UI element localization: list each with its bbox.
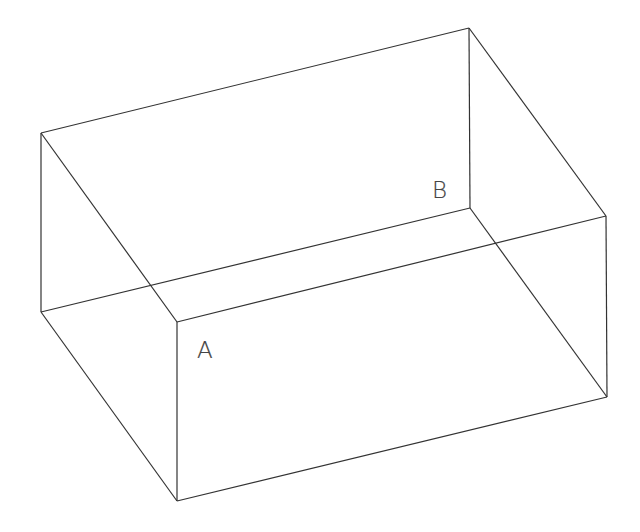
edge-left_bottom-B: [41, 208, 470, 312]
edge-top_right_back-B: [469, 28, 470, 208]
edge-top_right_back-right: [469, 28, 606, 216]
edge-bottom_front-bottom_right: [177, 397, 607, 501]
edge-top_left_back-A: [41, 133, 177, 322]
edge-right-bottom_right: [606, 216, 607, 397]
cuboid-diagram: [0, 0, 640, 532]
cuboid-edges: [41, 28, 607, 501]
label-b: B: [432, 179, 447, 202]
edge-top_left_back-top_right_back: [41, 28, 469, 133]
edge-B-bottom_right: [470, 208, 607, 397]
edge-left_bottom-bottom_front: [41, 312, 177, 501]
label-a: A: [197, 339, 213, 362]
